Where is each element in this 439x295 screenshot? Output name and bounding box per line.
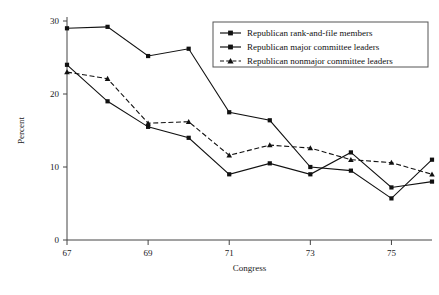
x-tick-label: 73 [306,248,316,258]
data-point [187,136,191,140]
legend-marker-2 [228,45,233,50]
data-point [64,69,70,74]
data-point [389,185,393,189]
data-point [187,47,191,51]
data-point [430,180,434,184]
data-point [308,165,312,169]
y-tick-label: 10 [50,162,60,172]
data-point [268,118,272,122]
x-tick-label: 69 [144,248,154,258]
data-point [105,25,109,29]
x-axis-title: Congress [233,263,267,273]
line-chart-figure: 01020306769717375CongressPercentRepublic… [0,0,439,295]
y-axis-title: Percent [16,117,26,144]
data-point [308,172,312,176]
legend-label-1: Republican rank-and-file members [247,28,373,38]
x-tick-label: 71 [225,248,234,258]
data-point [105,99,109,103]
data-point [349,150,353,154]
legend-label-2: Republican major committee leaders [247,42,380,52]
data-point [349,169,353,173]
data-point [65,63,69,67]
x-tick-label: 75 [387,248,397,258]
series-path [67,65,432,188]
series-path [67,72,432,174]
chart-canvas: 01020306769717375CongressPercentRepublic… [0,0,439,295]
y-tick-label: 30 [50,16,60,26]
chart-legend: Republican rank-and-file membersRepublic… [213,22,428,67]
data-point [430,158,434,162]
x-tick-label: 67 [63,248,73,258]
data-point [389,196,393,200]
data-point [227,110,231,114]
data-point [268,161,272,165]
legend-marker-1 [228,31,233,36]
data-point [65,26,69,30]
series-3 [64,69,435,176]
y-tick-label: 20 [50,89,60,99]
legend-label-3: Republican nonmajor committee leaders [247,56,393,66]
y-tick-label: 0 [55,235,60,245]
series-1 [65,63,434,190]
data-point [227,172,231,176]
data-point [146,54,150,58]
